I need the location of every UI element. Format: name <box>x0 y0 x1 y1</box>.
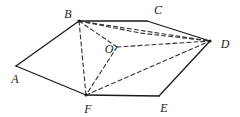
edge-OD <box>117 41 210 47</box>
vertex-label-d: D <box>221 38 230 50</box>
edge-BF <box>79 21 86 95</box>
figure-canvas <box>0 0 240 117</box>
edge-FA <box>16 66 86 95</box>
vertex-label-a: A <box>11 73 18 85</box>
vertex-label-c: C <box>154 4 162 16</box>
vertex-label-o: O <box>105 43 114 55</box>
vertex-label-f: F <box>84 103 91 115</box>
dot-B <box>78 20 81 23</box>
edge-DE <box>159 41 210 96</box>
interior-dashed-lines <box>79 21 210 95</box>
dot-F <box>85 94 88 97</box>
edge-AB <box>16 21 79 66</box>
edge-CD <box>147 21 210 41</box>
vertex-label-b: B <box>64 8 71 20</box>
polygon-outline <box>16 21 210 96</box>
geometry-figure: ABCDEFO <box>0 0 240 117</box>
dot-D <box>209 40 212 43</box>
edge-BD <box>79 21 210 41</box>
vertex-label-e: E <box>160 102 167 114</box>
edge-EF <box>86 95 159 96</box>
